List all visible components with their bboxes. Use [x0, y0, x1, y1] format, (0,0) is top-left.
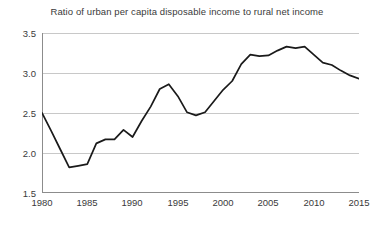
y-tick-label: 2.0 — [6, 148, 36, 159]
x-tick-label: 2015 — [339, 197, 374, 208]
chart-title: Ratio of urban per capita disposable inc… — [0, 6, 374, 17]
data-series-line — [42, 47, 359, 168]
x-tick-label: 2010 — [294, 197, 334, 208]
plot-area — [42, 33, 359, 193]
x-tick-label: 1980 — [22, 197, 62, 208]
x-tick-label: 2000 — [203, 197, 243, 208]
x-tick-label: 1995 — [158, 197, 198, 208]
y-tick-label: 3.5 — [6, 28, 36, 39]
x-tick-label: 2005 — [248, 197, 288, 208]
x-tick-label: 1985 — [67, 197, 107, 208]
y-tick-label: 2.5 — [6, 108, 36, 119]
y-tick-label: 3.0 — [6, 68, 36, 79]
chart-figure: Ratio of urban per capita disposable inc… — [0, 0, 374, 227]
line-chart-svg — [42, 33, 359, 193]
x-tick-label: 1990 — [112, 197, 152, 208]
